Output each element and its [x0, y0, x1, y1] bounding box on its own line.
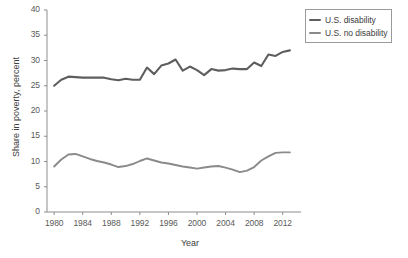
x-tick-label: 2012 — [265, 218, 301, 228]
x-axis-title: Year — [130, 238, 250, 248]
data-series-layer — [54, 50, 290, 172]
y-tick-label: 5 — [0, 181, 40, 191]
legend-color-swatch-disability — [309, 19, 321, 21]
chart-legend: U.S. disability U.S. no disability — [305, 9, 392, 43]
y-tick-label: 0 — [0, 206, 40, 216]
legend-item-no-disability[interactable]: U.S. no disability — [309, 26, 387, 39]
legend-label-disability: U.S. disability — [325, 15, 376, 25]
y-axis-title: Share in poverty, percent — [11, 37, 21, 177]
axis-tickmarks — [44, 10, 283, 215]
y-tick-label: 40 — [0, 4, 40, 14]
legend-label-no-disability: U.S. no disability — [325, 28, 387, 38]
legend-color-swatch-no-disability — [309, 32, 321, 34]
poverty-by-disability-line-chart: 0510152025303540 19801984198819921996200… — [0, 0, 408, 258]
legend-item-disability[interactable]: U.S. disability — [309, 13, 387, 26]
axis-lines — [47, 10, 301, 212]
